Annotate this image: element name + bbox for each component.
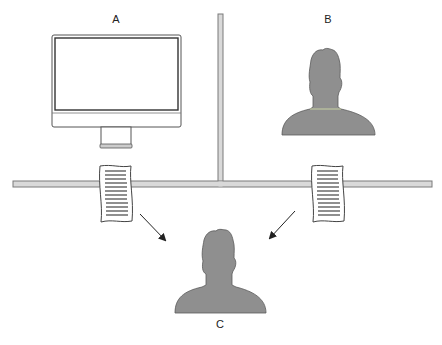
label-c: C [216,318,224,330]
network-diagram: A B C [0,0,442,345]
vertical-pipe [218,14,223,186]
person-b-icon [282,48,375,135]
person-c-icon [175,229,266,313]
label-a: A [112,13,119,25]
document-left-icon [100,165,133,222]
document-right-icon [312,165,345,222]
computer-monitor-icon [52,35,181,148]
arrow-left-to-c-icon [140,214,165,240]
label-b: B [324,13,331,25]
arrow-right-to-c-icon [270,211,295,238]
